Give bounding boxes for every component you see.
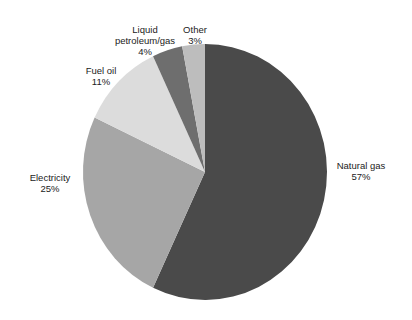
label-other-value: 3% [183, 35, 207, 46]
label-fuel-oil-name: Fuel oil [86, 65, 117, 76]
label-other: Other 3% [183, 24, 207, 46]
label-other-name: Other [183, 24, 207, 35]
label-lpg-value: 4% [115, 46, 175, 57]
label-natural-gas: Natural gas 57% [337, 160, 386, 182]
label-lpg-line2: petroleum/gas [115, 35, 175, 46]
label-fuel-oil-value: 11% [86, 76, 117, 87]
label-electricity-name: Electricity [30, 172, 71, 183]
label-lpg-line1: Liquid [115, 24, 175, 35]
label-natural-gas-name: Natural gas [337, 160, 386, 171]
label-fuel-oil: Fuel oil 11% [86, 65, 117, 87]
label-electricity-value: 25% [30, 183, 71, 194]
label-electricity: Electricity 25% [30, 172, 71, 194]
pie-slices [83, 44, 327, 300]
label-lpg: Liquid petroleum/gas 4% [115, 24, 175, 57]
label-natural-gas-value: 57% [337, 171, 386, 182]
